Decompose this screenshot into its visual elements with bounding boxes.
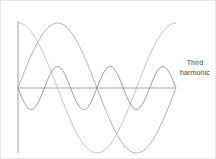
third-harmonic-annotation: Third harmonic (173, 58, 216, 77)
harmonic-waveform-plot (1, 1, 216, 159)
annotation-line-2: harmonic (173, 68, 216, 78)
waveform-figure: Third harmonic (0, 0, 216, 159)
annotation-line-1: Third (173, 58, 216, 68)
